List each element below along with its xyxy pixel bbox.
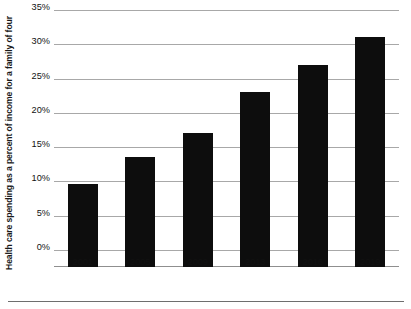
y-axis-tick-label: 15%: [32, 139, 50, 149]
plot-area: 200120052009201320162019: [54, 0, 399, 285]
y-axis-title-text: Health care spending as a percent of inc…: [4, 16, 14, 270]
x-axis-tick-label: 2019: [342, 257, 400, 267]
y-axis-tick-label: 30%: [32, 36, 50, 46]
bar[interactable]: [125, 157, 155, 267]
x-axis-tick-label: 2001: [54, 257, 112, 267]
y-axis-title: Health care spending as a percent of inc…: [0, 0, 18, 285]
y-axis-tick-label: 10%: [32, 173, 50, 183]
x-axis-tick-label: 2009: [169, 257, 227, 267]
bar[interactable]: [183, 133, 213, 267]
bar-group: 2016: [284, 18, 342, 267]
bar-group: 2013: [227, 18, 285, 267]
bar-group: 2009: [169, 18, 227, 267]
x-axis-tick-label: 2005: [112, 257, 170, 267]
bar[interactable]: [240, 92, 270, 267]
y-axis-tick-label: 20%: [32, 105, 50, 115]
y-axis-tick-label: 5%: [37, 208, 50, 218]
x-axis-tick-label: 2016: [284, 257, 342, 267]
bar[interactable]: [68, 184, 98, 268]
bar-group: 2005: [112, 18, 170, 267]
y-axis-tick-label: 0%: [37, 242, 50, 252]
footer-divider: [8, 301, 404, 302]
x-axis-tick-label: 2013: [227, 257, 285, 267]
bar-chart-figure: Health care spending as a percent of inc…: [0, 0, 411, 309]
bar-group: 2019: [342, 18, 400, 267]
y-axis-tick-label: 35%: [32, 2, 50, 12]
bar-series: 200120052009201320162019: [54, 0, 399, 285]
bar-group: 2001: [54, 18, 112, 267]
y-axis-tick-label: 25%: [32, 71, 50, 81]
y-axis-tick-labels: 0%5%10%15%20%25%30%35%: [18, 0, 54, 285]
bar[interactable]: [298, 65, 328, 267]
bar[interactable]: [355, 37, 385, 267]
